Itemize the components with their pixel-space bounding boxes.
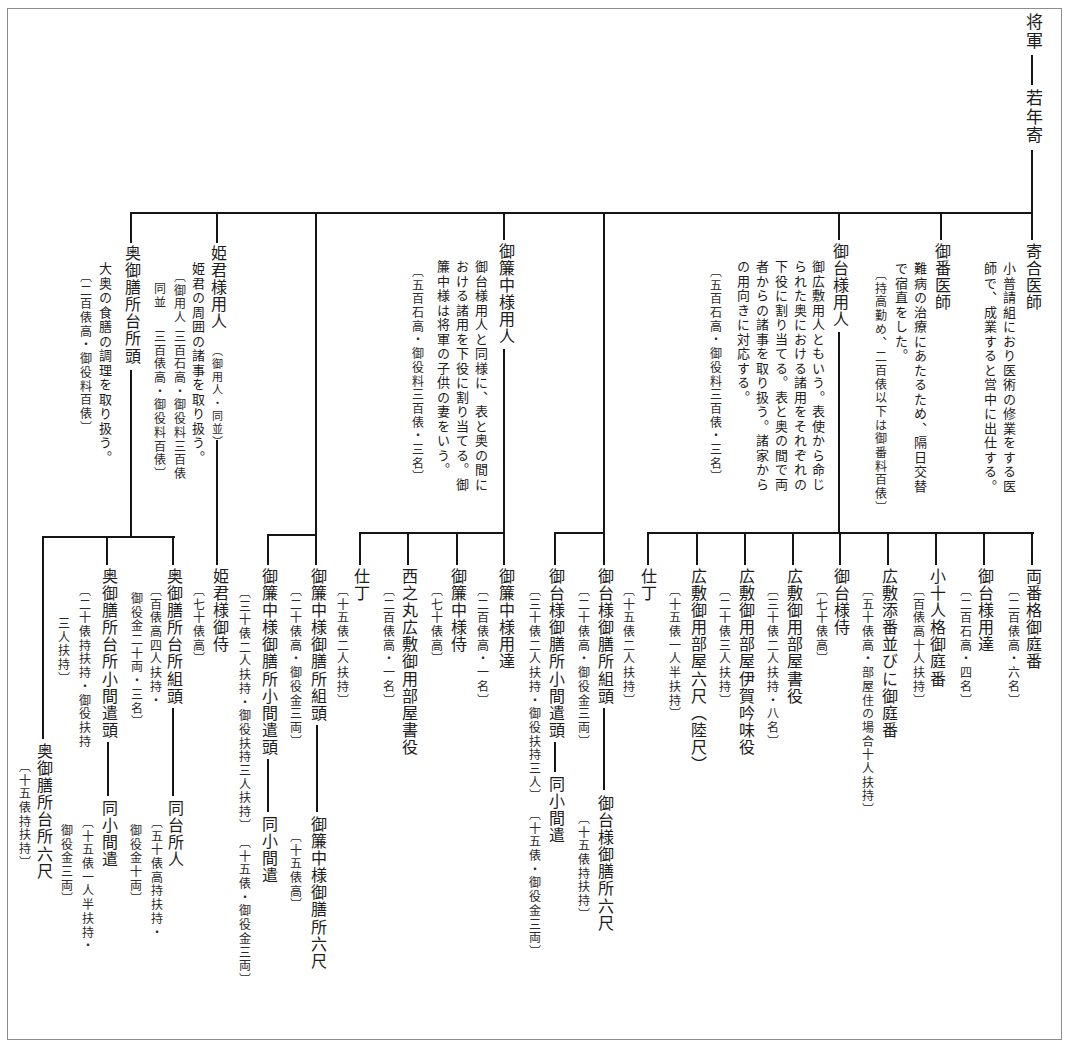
node-title: 御台様御膳所小間遣頭 — [547, 568, 563, 739]
connector-line — [744, 532, 746, 565]
node-note: 〔十五俵・御役金三両〕 — [527, 808, 539, 959]
node-title: 仕丁 — [639, 568, 655, 602]
node-title: 姫君様用人 — [209, 245, 225, 331]
node-title: 御簾中様御膳所組頭 — [309, 568, 325, 722]
root-title-wakadoshiyori: 若年寄 — [1024, 89, 1041, 145]
connector-line — [1031, 212, 1033, 240]
connector-line — [106, 536, 108, 565]
connector-line — [130, 212, 132, 243]
node-note: 御役金十両〕 — [128, 824, 140, 906]
node-note: 〔十五俵高〕 — [288, 830, 300, 912]
note-row-value: 三百俵高・御役料百俵〕 — [152, 330, 164, 481]
node-note: 〔五十俵高持扶持・ — [149, 816, 161, 939]
node-description: 姫君の周囲の諸事を取り扱う。 — [191, 262, 204, 465]
node-note: 〔十五俵二人扶持〕 — [335, 584, 347, 707]
node-title: 同小間遣 — [100, 800, 116, 868]
branch-bar — [267, 534, 317, 536]
connector-line — [940, 212, 942, 240]
node-note: 〔二百俵高・御役料百俵〕 — [78, 270, 90, 434]
connector-line — [503, 532, 505, 565]
node-note: 〔十五俵二人扶持〕 — [621, 584, 633, 707]
node-note: 〔十五俵持扶持〕 — [576, 812, 588, 922]
node-title: 御簾中様用人 — [497, 243, 513, 346]
connector-line — [696, 532, 698, 565]
connector-line — [603, 708, 605, 790]
node-title: 広敷添番並びに御庭番 — [880, 568, 896, 739]
connector-line — [1031, 532, 1033, 565]
connector-line — [554, 742, 556, 772]
node-title: 奥御膳所台所頭 — [123, 245, 139, 365]
node-title: 両番格御庭番 — [1024, 568, 1040, 671]
node-note: 〔二百俵高・一名〕 — [475, 584, 487, 707]
connector-line — [838, 212, 840, 240]
connector-line — [456, 532, 458, 565]
node-note: 〔三十俵二人扶持・御役扶持三人〕 — [527, 584, 539, 803]
node-note: 〔七十俵高〕 — [814, 584, 826, 666]
node-title: 御台様用達 — [976, 568, 992, 654]
node-note: 〔二百俵高・六名〕 — [1006, 584, 1018, 707]
node-description: 御広敷用人ともいう。表使から命じ — [811, 260, 824, 492]
node-note: 三人扶持〕 — [56, 617, 68, 686]
connector-line — [315, 534, 317, 565]
node-note: 〔五百石高・御役料三百俵・三名〕 — [410, 265, 422, 484]
node-note: 〔百俵高十人扶持〕 — [911, 584, 923, 707]
connector-line — [887, 532, 889, 565]
connector-line — [503, 212, 505, 240]
branch-bar — [359, 532, 505, 534]
node-description: 大奥の食膳の調理を取り扱う。 — [98, 262, 111, 465]
node-note: 〔十五俵一人半扶持〕 — [667, 584, 679, 721]
connector-line — [554, 532, 556, 565]
connector-line — [130, 370, 132, 538]
node-title: 奥御膳所台所六尺 — [35, 743, 51, 880]
connector-line — [839, 532, 841, 565]
node-note: 〔二十俵高・御役金三両〕 — [576, 584, 588, 748]
node-description: 者からの諸事を取り扱う。諸家から — [755, 260, 768, 492]
node-title: 小十人格御庭番 — [928, 568, 944, 688]
node-note: 〔七十俵高〕 — [191, 584, 203, 666]
node-note: 〔二百俵高・一名〕 — [381, 584, 393, 707]
node-description: 小普請組におり医術の修業をする医 — [1002, 262, 1015, 494]
connector-line — [316, 725, 318, 812]
node-note: 〔十五俵持扶持〕 — [17, 760, 29, 870]
connector-line — [935, 532, 937, 565]
connector-line — [603, 532, 605, 565]
node-note: 〔三十俵二人扶持・御役扶持三人扶持〕 — [237, 586, 249, 833]
connector-line — [792, 532, 794, 565]
node-note: 〔十五俵・御役金三両〕 — [237, 836, 249, 987]
connector-line — [647, 532, 649, 565]
connector-line — [315, 212, 317, 536]
node-note: 〔二百石高・四名〕 — [958, 584, 970, 707]
node-title: 御簾中様御膳所六尺 — [309, 816, 325, 970]
node-title: 御簾中様御膳所小間遣頭 — [260, 568, 276, 756]
connector-line — [603, 212, 605, 534]
node-description: 下役に割り当てる。表と奥の間で両 — [774, 260, 787, 492]
connector-line — [267, 534, 269, 565]
connector-line — [42, 536, 44, 739]
branch-bar — [554, 532, 605, 534]
note-row-label: 〔御用人 — [172, 270, 184, 325]
connector-line — [359, 532, 361, 565]
connector-line — [1031, 55, 1033, 85]
root-title-shogun: 将軍 — [1024, 13, 1041, 50]
node-note: 〔三十俵二人扶持・八名〕 — [765, 584, 777, 748]
connector-line — [172, 708, 174, 796]
node-title: 仕丁 — [352, 568, 368, 602]
node-note: 御役金三両〕 — [59, 824, 71, 906]
node-title: 御簾中様侍 — [449, 568, 465, 654]
node-note: 〔百俵高四人扶持・ — [148, 584, 160, 707]
node-title: 同台所人 — [166, 800, 182, 868]
node-title: 奥御膳所台所小間遣頭 — [100, 568, 116, 739]
branch-bar — [42, 536, 175, 538]
node-description: で宿直をした。 — [894, 262, 907, 364]
node-note: 〔七十俵高〕 — [429, 584, 441, 666]
node-description: 難病の治療にあたるため、隔日交替 — [913, 262, 926, 494]
node-title: 寄合医師 — [1024, 243, 1040, 311]
node-note: 〔五百石高・御役料三百俵・三名〕 — [708, 265, 720, 484]
node-title: 御台様御膳所組頭 — [596, 568, 612, 705]
node-description: の用向きに対応する。 — [736, 260, 749, 405]
node-note: 〔二十俵高・御役金三両〕 — [288, 584, 300, 748]
node-note: 〔二十俵持扶持・御役扶持 — [77, 584, 89, 748]
node-title: 御台様御膳所六尺 — [596, 795, 612, 932]
node-title: 西之丸広敷御用部屋書役 — [400, 568, 416, 756]
node-description: おける諸用を下役に割り当てる。御 — [455, 260, 468, 492]
